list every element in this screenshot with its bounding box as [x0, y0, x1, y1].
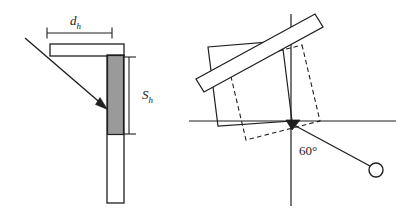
- diagram-canvas: dh Sh: [0, 0, 403, 214]
- canvas-background: [0, 0, 403, 214]
- figure-root: dh Sh: [0, 0, 403, 214]
- width-label-subscript: h: [77, 21, 82, 31]
- height-label-subscript: h: [149, 95, 154, 105]
- target-circle: [369, 163, 383, 177]
- shaded-segment: [108, 56, 124, 135]
- horizontal-bar: [50, 44, 124, 56]
- angle-label: 60°: [299, 143, 317, 158]
